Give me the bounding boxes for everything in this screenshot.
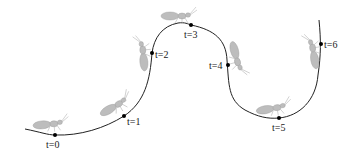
point-t6 bbox=[319, 42, 323, 46]
point-t2 bbox=[150, 51, 154, 55]
point-t3 bbox=[189, 23, 193, 27]
trajectory-path bbox=[25, 20, 320, 135]
ant-trajectory-diagram: t=0 t=1 t=2 t=3 t=4 t=5 t=6 bbox=[0, 0, 358, 157]
ant-icon-t3 bbox=[161, 7, 197, 24]
ant-icon-t2 bbox=[133, 34, 153, 71]
label-t0: t=0 bbox=[46, 139, 59, 150]
point-t4 bbox=[226, 63, 230, 67]
label-t1: t=1 bbox=[127, 116, 140, 127]
label-t3: t=3 bbox=[184, 29, 197, 40]
point-t1 bbox=[122, 114, 126, 118]
label-t5: t=5 bbox=[272, 122, 285, 133]
ant-icon-t0 bbox=[32, 114, 69, 134]
ant-icon-t5 bbox=[255, 96, 293, 119]
point-t5 bbox=[277, 116, 281, 120]
ant-icon-t6 bbox=[301, 32, 324, 70]
point-t0 bbox=[53, 133, 57, 137]
label-t2: t=2 bbox=[155, 49, 168, 60]
label-t4: t=4 bbox=[209, 60, 222, 71]
label-t6: t=6 bbox=[324, 39, 337, 50]
